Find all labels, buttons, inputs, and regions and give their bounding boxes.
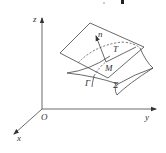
z-axis-label: z [32,14,37,24]
curve-gamma [92,76,94,87]
artifact-mark [103,2,105,4]
axes [14,18,156,134]
surface-sigma-right-edge [140,48,153,68]
artifact-mark [121,0,124,4]
curve-label: Γ [84,78,91,88]
tangent-label: T [113,44,119,54]
surface-sigma [67,56,153,95]
curve-gamma-hidden [78,42,140,63]
origin-label: O [41,112,48,122]
point-label: M [104,63,113,73]
x-axis [14,109,42,134]
x-axis-label: x [16,133,21,143]
diagram-canvas: z O y x n T M Γ Σ [0,0,166,153]
tangent-vector-t [106,47,136,62]
normal-label: n [98,29,103,39]
surface-label: Σ [112,80,119,90]
y-axis-label: y [144,112,149,122]
